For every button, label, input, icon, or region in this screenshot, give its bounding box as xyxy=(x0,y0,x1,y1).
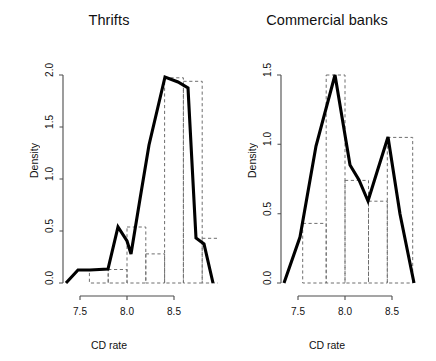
plot-area-commercial-banks xyxy=(218,0,436,361)
y-axis-label-commercial-banks: Density xyxy=(246,143,258,178)
y-tick-label: 0.0 xyxy=(262,271,273,285)
x-tick-label: 8.0 xyxy=(120,306,134,317)
x-tick-label: 8.0 xyxy=(338,306,352,317)
y-tick-label: 1.5 xyxy=(44,115,55,129)
y-tick-label: 0.5 xyxy=(44,219,55,233)
figure-container: Thrifts Density 0.0 0.5 1.0 1.5 2.0 xyxy=(0,0,436,361)
hist-bar xyxy=(108,270,127,284)
hist-bar xyxy=(127,227,146,283)
y-tick-label: 0.5 xyxy=(262,202,273,216)
hist-bar xyxy=(89,270,108,284)
x-axis-label-commercial-banks: CD rate xyxy=(218,339,436,351)
y-tick-label: 1.5 xyxy=(262,63,273,77)
y-axis-thrifts xyxy=(59,75,63,283)
x-tick-label: 8.5 xyxy=(167,306,181,317)
hist-bar xyxy=(146,254,165,283)
hist-bar xyxy=(326,75,345,283)
plot-area-thrifts xyxy=(0,0,218,361)
hist-bar xyxy=(165,78,184,283)
density-curve-commercial-banks xyxy=(284,75,414,283)
panel-thrifts: Thrifts Density 0.0 0.5 1.0 1.5 2.0 xyxy=(0,0,218,361)
hist-bar xyxy=(369,201,388,283)
density-curve-thrifts xyxy=(66,77,213,283)
y-tick-label: 1.0 xyxy=(44,167,55,181)
x-axis-label-thrifts: CD rate xyxy=(0,339,218,351)
y-tick-label: 0.0 xyxy=(44,271,55,285)
hist-bar xyxy=(303,223,327,283)
y-tick-label: 1.0 xyxy=(262,132,273,146)
histogram-bars-thrifts xyxy=(89,78,218,283)
x-axis-thrifts xyxy=(80,296,174,300)
panel-commercial-banks: Commercial banks Density 0.0 0.5 1.0 1.5… xyxy=(218,0,436,361)
x-tick-label: 7.5 xyxy=(291,306,305,317)
y-tick-label: 2.0 xyxy=(44,63,55,77)
y-axis-commercial-banks xyxy=(277,75,281,283)
x-axis-commercial-banks xyxy=(298,296,392,300)
x-tick-label: 7.5 xyxy=(73,306,87,317)
y-axis-label-thrifts: Density xyxy=(28,143,40,178)
x-tick-label: 8.5 xyxy=(385,306,399,317)
